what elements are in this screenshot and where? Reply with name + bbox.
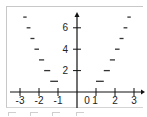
x-tick-label: 0 xyxy=(84,95,90,106)
y-tick-label: 4 xyxy=(62,44,68,55)
x-tick-label: 3 xyxy=(131,95,137,106)
cropped-content-below xyxy=(0,110,147,117)
y-tick-label: 2 xyxy=(62,65,68,76)
x-tick-label: -1 xyxy=(54,95,63,106)
axes xyxy=(10,12,145,108)
tick-labels: -3-2-10123246 xyxy=(16,22,138,106)
cropped-mark xyxy=(30,112,38,113)
cropped-mark xyxy=(8,112,16,113)
x-tick-label: -3 xyxy=(16,95,25,106)
y-tick-label: 6 xyxy=(62,22,68,33)
cropped-mark xyxy=(52,112,60,113)
step-function-chart: -3-2-10123246 xyxy=(0,0,147,117)
y-axis-arrow-icon xyxy=(75,12,80,17)
x-tick-label: 2 xyxy=(112,95,118,106)
x-tick-label: -2 xyxy=(35,95,44,106)
x-axis-arrow-icon xyxy=(141,90,145,95)
cropped-mark xyxy=(76,112,84,113)
x-tick-label: 1 xyxy=(92,95,98,106)
